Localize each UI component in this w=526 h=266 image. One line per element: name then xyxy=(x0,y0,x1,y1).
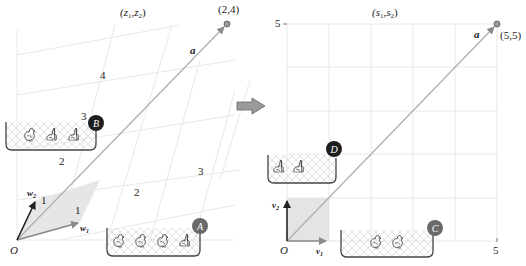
v1-label: v1 xyxy=(316,246,323,257)
left-title: (z1,z2) xyxy=(120,6,146,20)
basket-d: D xyxy=(268,141,342,183)
svg-text:A: A xyxy=(196,221,204,232)
grid-label-w2-1: 1 xyxy=(41,194,47,206)
point-5-5 xyxy=(494,21,500,27)
vector-a-label-left: a xyxy=(190,44,196,56)
vector-a-label-right: a xyxy=(474,28,480,40)
v2-label: v2 xyxy=(272,200,279,211)
grid-label-w1-2: 2 xyxy=(134,186,140,198)
grid-label-w1-3: 3 xyxy=(198,165,204,177)
point-2-4 xyxy=(224,21,230,27)
point-label-2-4: (2,4) xyxy=(218,3,239,16)
basket-b: B xyxy=(6,115,104,150)
diagram-canvas: (z1,z2) (2,4) a w1 w2 O 1 1 2 2 3 3 4 B … xyxy=(0,0,526,266)
grid-label-w2-2: 2 xyxy=(59,155,65,167)
w2-label: w2 xyxy=(27,188,36,199)
basket-a: A xyxy=(107,218,208,256)
svg-text:C: C xyxy=(432,223,439,234)
grid-label-w2-4: 4 xyxy=(100,69,106,81)
origin-label-right: O xyxy=(280,244,288,256)
w1-label: w1 xyxy=(80,223,89,234)
vector-a-right xyxy=(287,27,494,241)
y-tick-5: 5 xyxy=(275,17,281,29)
basket-c: C xyxy=(341,220,443,257)
grid-label-w1-1: 1 xyxy=(75,204,81,216)
svg-text:B: B xyxy=(93,118,99,129)
point-label-5-5: (5,5) xyxy=(500,29,521,42)
grid-label-w2-3: 3 xyxy=(81,110,87,122)
x-tick-5: 5 xyxy=(493,244,499,256)
right-arrow-icon xyxy=(237,98,265,114)
svg-text:D: D xyxy=(329,144,338,155)
origin-label-left: O xyxy=(10,244,18,256)
right-title: (s1,s2) xyxy=(372,6,398,20)
